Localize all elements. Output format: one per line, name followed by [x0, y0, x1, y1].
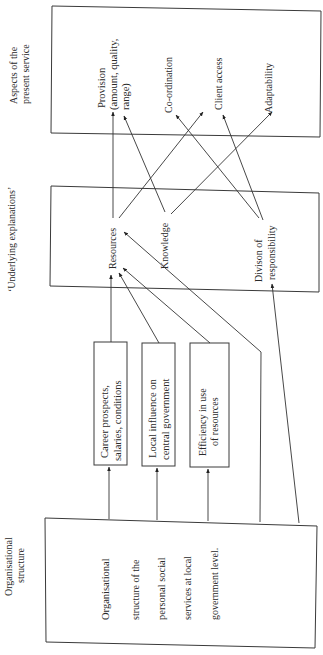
svg-text:structure of the: structure of the [130, 559, 141, 620]
row-label-aspects: Aspects of the present service [8, 44, 31, 104]
svg-text:‘Underlying explanations’: ‘Underlying explanations’ [6, 187, 17, 292]
svg-text:Divison of: Divison of [253, 239, 264, 282]
node-coordination: Co-ordination [163, 57, 174, 113]
svg-text:personal social: personal social [156, 557, 167, 620]
row-label-organisational: Organisational structure [3, 537, 26, 596]
svg-text:present service: present service [20, 44, 31, 104]
efficiency-box: Efficiency in use of resources [190, 343, 229, 467]
edges [109, 112, 299, 523]
edge-org-division [272, 284, 299, 523]
node-knowledge: Knowledge [159, 222, 170, 269]
edge-local-resources [119, 273, 159, 343]
svg-text:Career prospects,: Career prospects, [99, 385, 110, 458]
svg-text:Efficiency in use: Efficiency in use [197, 388, 208, 456]
svg-text:Aspects of the: Aspects of the [8, 46, 19, 104]
node-provision: Provision (amount, quality, range) [96, 39, 132, 110]
organisational-box-frame [45, 518, 317, 648]
node-client-access: Client access [213, 57, 224, 110]
node-division: Divison of responsibility [253, 226, 277, 282]
explanations-box: Resources Knowledge Divison of responsib… [50, 186, 319, 292]
node-resources: Resources [107, 228, 118, 269]
aspects-box-frame [51, 6, 321, 137]
local-influence-box: Local influence on central government [142, 343, 175, 466]
career-box: Career prospects, salaries, conditions [94, 342, 127, 465]
row-label-explanations: ‘Underlying explanations’ [6, 187, 17, 292]
edge-efficiency-resources [123, 268, 210, 343]
diagram-canvas: Aspects of the present service ‘Underlyi… [0, 0, 323, 655]
svg-text:of resources: of resources [209, 397, 220, 446]
edge-knowledge-provision [124, 116, 165, 212]
svg-text:government level.: government level. [209, 548, 220, 620]
svg-text:Local influence on: Local influence on [147, 379, 158, 458]
svg-text:Organisational: Organisational [3, 537, 14, 596]
organisational-box: Organisational structure of the personal… [45, 518, 317, 648]
aspects-box: Provision (amount, quality, range) Co-or… [51, 6, 321, 137]
node-adaptability: Adaptability [263, 63, 274, 113]
svg-text:Organisational: Organisational [100, 558, 111, 620]
explanations-box-frame [50, 186, 319, 292]
edge-division-client-access [223, 115, 263, 220]
svg-text:central government: central government [160, 379, 171, 460]
edge-division-coordination [176, 115, 259, 218]
svg-text:salaries, conditions: salaries, conditions [112, 381, 123, 461]
svg-text:structure: structure [15, 547, 26, 583]
svg-text:Provision: Provision [96, 67, 107, 108]
edge-org-knowledge [124, 232, 261, 522]
svg-text:range): range) [120, 83, 132, 110]
svg-text:services at local: services at local [182, 556, 193, 620]
svg-text:(amount, quality,: (amount, quality, [108, 39, 120, 110]
svg-text:responsibility: responsibility [266, 226, 277, 280]
